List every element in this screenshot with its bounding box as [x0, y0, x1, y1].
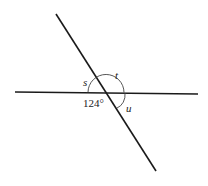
given-angle-label: 124° [83, 97, 104, 109]
arc-u [117, 93, 125, 108]
angle-diagram: s t u 124° [0, 0, 208, 186]
arc-s-t [88, 74, 124, 92]
angle-label-u: u [126, 102, 132, 114]
angle-label-s: s [83, 76, 87, 88]
